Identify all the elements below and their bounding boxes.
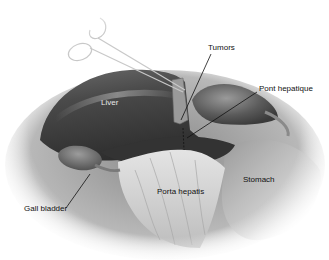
label-stomach: Stomach bbox=[243, 175, 275, 184]
label-gall-bladder: Gall bladder bbox=[24, 204, 67, 213]
label-pont-hepatique: Pont hepatique bbox=[259, 84, 313, 93]
label-porta-hepatis: Porta hepatis bbox=[157, 187, 204, 196]
edge-vignette bbox=[0, 0, 329, 260]
surgical-illustration: Tumors Pont hepatique Liver Gall bladder… bbox=[0, 0, 329, 260]
illustration-canvas bbox=[0, 0, 329, 260]
label-tumors: Tumors bbox=[208, 43, 235, 52]
label-liver: Liver bbox=[101, 98, 118, 107]
